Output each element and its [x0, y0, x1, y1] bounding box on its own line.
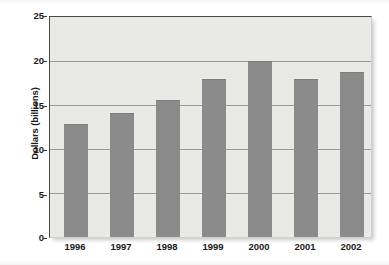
x-tick-label-2002: 2002 [328, 241, 374, 253]
y-tick-mark-15 [43, 106, 47, 107]
bar-1996 [64, 124, 88, 237]
x-tick-label-1999: 1999 [190, 241, 236, 253]
y-tick-mark-0 [43, 238, 47, 239]
y-tick-label-20: 20 [22, 56, 44, 66]
x-tick-label-1997: 1997 [98, 241, 144, 253]
scan-edge-top [0, 0, 389, 4]
x-tick-label-2001: 2001 [282, 241, 328, 253]
x-tick-label-1996: 1996 [52, 241, 98, 253]
x-axis-tick-group: 1996 1997 1998 1999 2000 2001 2002 [49, 241, 372, 259]
bar-chart: Dollars (billions) 25 20 15 10 5 0 1996 … [0, 0, 389, 265]
x-tick-label-1998: 1998 [144, 241, 190, 253]
bar-1997 [110, 113, 134, 237]
y-axis-tick-group: 25 20 15 10 5 0 [18, 0, 44, 265]
gridline-20 [50, 61, 371, 62]
y-tick-label-0: 0 [22, 233, 44, 243]
y-tick-label-15: 15 [22, 101, 44, 111]
y-tick-label-5: 5 [22, 190, 44, 200]
bar-1998 [156, 100, 180, 237]
y-tick-label-10: 10 [22, 145, 44, 155]
plot-area [49, 16, 372, 238]
y-tick-mark-5 [43, 195, 47, 196]
bar-2000 [248, 61, 272, 237]
y-tick-mark-10 [43, 150, 47, 151]
scan-edge-bottom [0, 260, 389, 265]
y-tick-mark-25 [43, 16, 47, 17]
x-tick-label-2000: 2000 [236, 241, 282, 253]
bar-1999 [202, 79, 226, 237]
bar-2001 [294, 79, 318, 237]
y-tick-mark-20 [43, 61, 47, 62]
bar-2002 [340, 72, 364, 237]
y-tick-label-25: 25 [22, 11, 44, 21]
